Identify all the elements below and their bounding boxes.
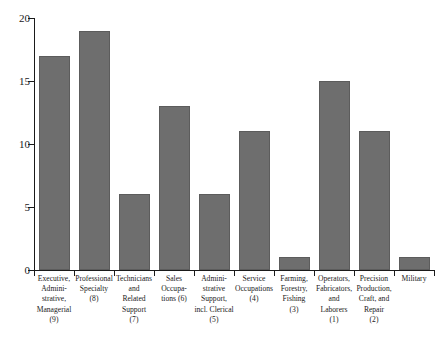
bar — [279, 257, 310, 270]
bar — [39, 56, 70, 270]
x-axis-category-label: Military — [390, 274, 438, 284]
y-axis-tick-label: 15 — [19, 73, 30, 89]
y-axis-tick: 10 — [34, 144, 35, 145]
plot-area: 05101520 — [34, 18, 434, 270]
y-axis-tick: 20 — [34, 18, 35, 19]
bar — [239, 131, 270, 270]
x-axis-category-labels: Executive, Admini- strative, Managerial … — [34, 274, 434, 338]
y-axis-tick: 15 — [34, 81, 35, 82]
bar — [119, 194, 150, 270]
bar — [319, 81, 350, 270]
y-axis-tick: 5 — [34, 207, 35, 208]
bar — [399, 257, 430, 270]
bar — [79, 31, 110, 270]
bar-chart: 05101520 Executive, Admini- strative, Ma… — [0, 0, 444, 338]
y-axis-tick-label: 10 — [19, 136, 30, 152]
y-axis-tick-label: 20 — [19, 10, 30, 26]
bar — [199, 194, 230, 270]
bar — [159, 106, 190, 270]
bar — [359, 131, 390, 270]
y-axis-tick-label: 5 — [25, 199, 31, 215]
